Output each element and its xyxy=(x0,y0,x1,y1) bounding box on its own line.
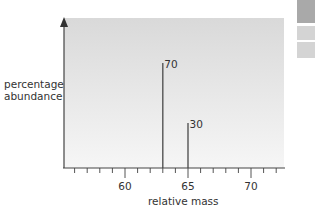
chart: 7030 606570 xyxy=(0,0,315,215)
plot-background xyxy=(64,18,284,168)
y-axis-label-text: percentage abundance xyxy=(4,78,64,102)
x-tick-label: 60 xyxy=(118,180,131,192)
x-tick-label: 65 xyxy=(181,180,194,192)
x-axis-label: relative mass xyxy=(148,195,219,207)
bar-label: 30 xyxy=(190,118,203,130)
x-tick-labels: 606570 xyxy=(118,180,257,192)
y-axis-label: percentage abundance xyxy=(4,78,62,102)
x-tick-label: 70 xyxy=(244,180,257,192)
bar-label: 70 xyxy=(164,58,177,70)
x-ticks xyxy=(75,168,277,178)
